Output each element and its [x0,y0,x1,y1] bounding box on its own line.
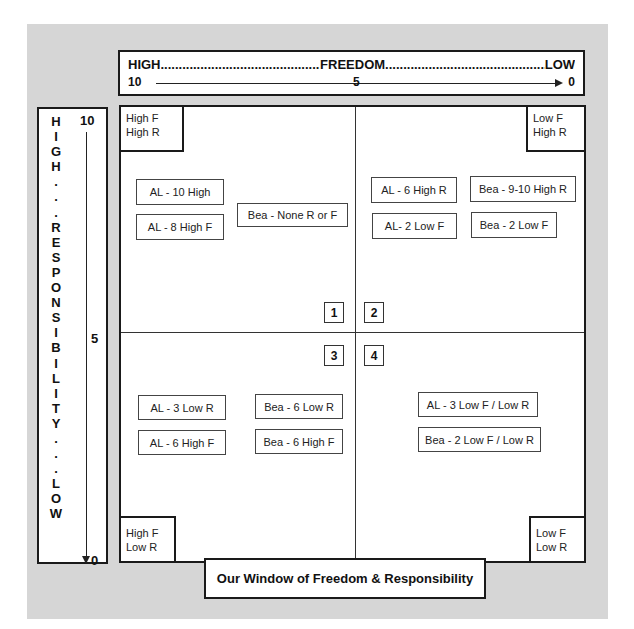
corner-top-right: Low F High R [526,105,586,152]
quadrant-1-item: Bea - None R or F [237,203,348,227]
quadrant-4-item: Bea - 2 Low F / Low R [418,427,541,452]
corner-line: High R [126,125,177,139]
diagram-title: Our Window of Freedom & Responsibility [204,558,486,599]
quadrant-2-item: Bea - 2 Low F [471,212,557,238]
quadrant-3-item: AL - 3 Low R [138,395,226,420]
corner-top-left: High F High R [119,105,184,152]
responsibility-scale-start: 10 [80,113,94,128]
corner-bottom-left: High F Low R [119,516,176,563]
axis-letter: . [49,205,63,220]
responsibility-vertical-text: H I G H . . . R E S P O N S I B I L I T … [49,114,63,522]
axis-letter: P [49,265,63,280]
axis-letter: O [49,280,63,295]
freedom-scale-start: 10 [128,75,141,89]
freedom-responsibility-window: High F High R Low F High R High F Low R … [119,105,586,563]
axis-letter: E [49,235,63,250]
corner-line: High R [533,125,579,139]
responsibility-axis-box: H I G H . . . R E S P O N S I B I L I T … [37,107,108,564]
corner-line: High F [126,526,169,540]
quadrant-4-item: AL - 3 Low F / Low R [418,392,538,417]
freedom-axis-labels: HIGH ...................................… [128,57,575,73]
axis-letter: L [49,371,63,386]
axis-letter: Y [49,416,63,431]
axis-letter: . [49,446,63,461]
axis-letter: W [49,506,63,521]
corner-line: Low R [126,540,169,554]
freedom-axis-box: HIGH ...................................… [118,50,585,96]
axis-letter: . [49,461,63,476]
freedom-high-label: HIGH [128,57,161,72]
responsibility-scale-mid: 5 [91,331,98,346]
axis-letter: N [49,295,63,310]
axis-letter: I [49,356,63,371]
axis-letter: R [49,220,63,235]
corner-line: Low F [533,111,579,125]
axis-letter: O [49,491,63,506]
arrow-down-icon [82,556,90,564]
axis-letter: . [49,189,63,204]
corner-line: Low R [536,540,579,554]
quadrant-2-item: Bea - 9-10 High R [470,176,576,202]
quadrant-1-number: 1 [324,302,344,323]
freedom-low-label: LOW [545,57,575,72]
quadrant-1-item: AL - 10 High [136,179,224,205]
quadrant-3-item: Bea - 6 Low R [255,394,343,419]
freedom-scale-mid: 5 [353,75,360,89]
freedom-scale: 10 5 0 [128,75,575,91]
responsibility-arrow-line [86,132,87,557]
axis-letter: G [49,144,63,159]
dotted-leader-left: ........................................… [161,57,321,72]
axis-letter: T [49,401,63,416]
quadrant-1-item: AL - 8 High F [136,214,224,240]
freedom-axis-name: FREEDOM [320,57,385,72]
axis-letter: . [49,431,63,446]
axis-letter: S [49,310,63,325]
axis-letter: I [49,129,63,144]
axis-letter: H [49,114,63,129]
quadrant-3-item: Bea - 6 High F [255,429,343,454]
quadrant-3-number: 3 [324,345,344,366]
axis-letter: . [49,174,63,189]
corner-line: Low F [536,526,579,540]
axis-letter: I [49,386,63,401]
axis-letter: L [49,476,63,491]
quadrant-2-item: AL - 6 High R [371,177,457,203]
axis-letter: S [49,250,63,265]
vertical-divider [355,107,356,561]
corner-bottom-right: Low F Low R [529,516,586,563]
quadrant-4-number: 4 [364,345,384,366]
arrow-right-icon [555,79,563,87]
quadrant-2-number: 2 [364,302,384,323]
corner-line: High F [126,111,177,125]
axis-letter: B [49,340,63,355]
horizontal-divider [121,332,584,333]
axis-letter: H [49,159,63,174]
axis-letter: I [49,325,63,340]
quadrant-3-item: AL - 6 High F [138,430,226,455]
freedom-scale-end: 0 [568,75,575,89]
quadrant-2-item: AL- 2 Low F [372,213,457,239]
dotted-leader-right: ........................................… [385,57,545,72]
responsibility-scale-end: 0 [91,553,98,568]
